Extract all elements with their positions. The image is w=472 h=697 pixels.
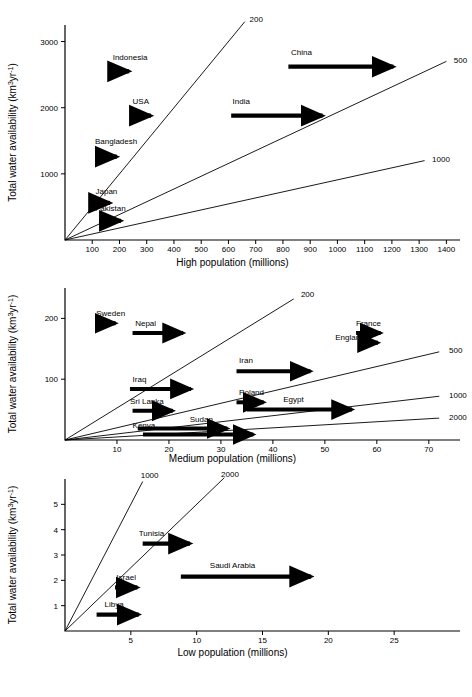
x-axis-title: Medium population (millions)	[169, 453, 296, 464]
country-label-poland: Poland	[239, 388, 264, 397]
country-label-france: France	[356, 319, 381, 328]
x-axis-title: High population (millions)	[176, 257, 288, 268]
x-tick-label: 600	[222, 245, 236, 254]
y-tick-label: 3000	[40, 38, 58, 47]
y-axis-title-close: )	[7, 63, 18, 66]
y-axis-title: Total water availability (km3yr-1)	[7, 295, 18, 434]
x-tick-label: 500	[195, 245, 209, 254]
chart-svg-high: 1002003004005006007008009001000110012001…	[0, 0, 472, 272]
country-label-pakistan: Pakistan	[95, 204, 126, 213]
iso-line-label-200: 200	[250, 15, 264, 24]
x-tick-label: 200	[113, 245, 127, 254]
y-axis-title-main: Total water availability (km	[7, 85, 18, 202]
chart-svg-medium: 10203040506070100200Medium population (m…	[0, 272, 472, 464]
y-axis-title-main: Total water availability (km	[7, 508, 18, 625]
iso-line-label-1000: 1000	[449, 391, 467, 400]
x-tick-label: 400	[167, 245, 181, 254]
country-label-iran: Iran	[239, 356, 253, 365]
x-tick-label: 1100	[356, 245, 374, 254]
country-label-england: England	[335, 333, 364, 342]
x-tick-label: 100	[86, 245, 100, 254]
x-tick-label: 20	[324, 636, 333, 645]
country-label-saudi-arabia: Saudi Arabia	[210, 561, 256, 570]
country-label-usa: USA	[133, 97, 150, 106]
y-tick-label: 5	[54, 500, 59, 509]
axis-lines	[65, 479, 460, 631]
iso-line-label-1000: 1000	[432, 155, 450, 164]
chart-panel-medium-population: 10203040506070100200Medium population (m…	[0, 272, 472, 464]
y-axis-title-main: Total water availability (km	[7, 317, 18, 434]
y-tick-label: 2	[54, 576, 59, 585]
x-tick-label: 25	[390, 636, 399, 645]
country-label-libya: Libya	[105, 600, 125, 609]
country-label-israel: Israel	[116, 573, 136, 582]
x-tick-label: 800	[276, 245, 290, 254]
country-label-iraq: Iraq	[133, 375, 147, 384]
y-axis-title: Total water availability (km3yr-1)	[7, 486, 18, 625]
chart-panel-high-population: 1002003004005006007008009001000110012001…	[0, 0, 472, 272]
x-tick-label: 10	[113, 445, 122, 454]
country-label-tunisia: Tunisia	[139, 529, 165, 538]
y-tick-label: 2000	[40, 104, 58, 113]
x-tick-label: 900	[303, 245, 317, 254]
country-label-bangladesh: Bangladesh	[95, 137, 137, 146]
country-label-japan: Japan	[96, 187, 118, 196]
y-tick-label: 1	[54, 602, 59, 611]
iso-line-label-2000: 2000	[449, 413, 467, 422]
iso-line-2000	[65, 478, 224, 631]
y-tick-label: 200	[45, 314, 59, 323]
x-axis-title: Low population (millions)	[177, 647, 287, 658]
y-axis-title-close: )	[7, 486, 18, 489]
country-label-nepal: Nepal	[135, 319, 156, 328]
x-tick-label: 700	[249, 245, 263, 254]
y-tick-label: 3	[54, 551, 59, 560]
y-tick-label: 100	[45, 375, 59, 384]
country-label-indonesia: Indonesia	[113, 53, 148, 62]
country-label-egypt: Egypt	[283, 395, 304, 404]
x-tick-label: 50	[320, 445, 329, 454]
chart-panel-low-population: 51015202512345Low population (millions)T…	[0, 464, 472, 697]
country-label-sweden: Sweden	[96, 309, 125, 318]
iso-line-1000	[65, 161, 425, 240]
x-tick-label: 15	[258, 636, 267, 645]
country-label-china: China	[291, 48, 312, 57]
chart-svg-low: 51015202512345Low population (millions)T…	[0, 464, 472, 697]
x-tick-label: 1200	[383, 245, 401, 254]
iso-line-label-200: 200	[301, 290, 315, 299]
x-tick-label: 1000	[329, 245, 347, 254]
x-tick-label: 60	[372, 445, 381, 454]
country-label-sri-lanka: Sri Lanka	[130, 397, 164, 406]
country-label-india: India	[233, 97, 251, 106]
y-tick-label: 1000	[40, 170, 58, 179]
country-label-kenya: Kenya	[133, 421, 156, 430]
iso-line-2000	[65, 418, 439, 440]
x-tick-label: 1300	[410, 245, 428, 254]
x-tick-label: 70	[424, 445, 433, 454]
iso-line-label-1000: 1000	[141, 471, 159, 480]
x-tick-label: 5	[129, 636, 134, 645]
y-axis-title-close: )	[7, 295, 18, 298]
x-tick-label: 300	[140, 245, 154, 254]
x-tick-label: 10	[192, 636, 201, 645]
iso-line-label-2000: 2000	[221, 470, 239, 479]
water-availability-figure: 1002003004005006007008009001000110012001…	[0, 0, 472, 697]
iso-line-200	[65, 22, 245, 240]
iso-line-label-500: 500	[449, 346, 463, 355]
country-label-sudan: Sudan	[190, 415, 213, 424]
iso-line-label-500: 500	[454, 56, 468, 65]
x-tick-label: 1400	[437, 245, 455, 254]
iso-line-500	[65, 61, 446, 240]
y-tick-label: 4	[54, 526, 59, 535]
y-axis-title: Total water availability (km3yr-1)	[7, 63, 18, 202]
